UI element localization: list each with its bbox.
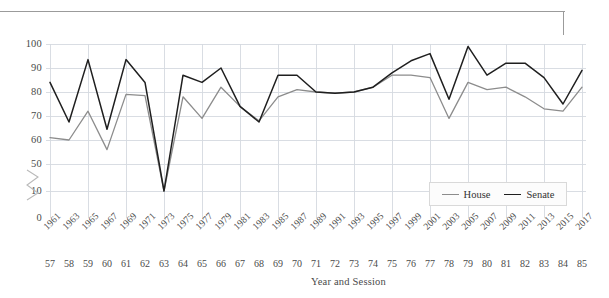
legend-swatch-senate xyxy=(504,194,521,195)
y-tick-label-80: 80 xyxy=(31,87,42,98)
x-tick-session-77: 77 xyxy=(420,258,440,269)
y-axis-labels: 0105060708090100 xyxy=(0,0,42,298)
x-tick-session-66: 66 xyxy=(211,258,231,269)
x-tick-year-1961: 1961 xyxy=(41,210,63,232)
x-tick-session-69: 69 xyxy=(268,258,288,269)
x-tick-session-57: 57 xyxy=(40,258,60,269)
x-tick-session-80: 80 xyxy=(477,258,497,269)
x-tick-session-73: 73 xyxy=(344,258,364,269)
x-tick-session-70: 70 xyxy=(287,258,307,269)
x-tick-session-83: 83 xyxy=(534,258,554,269)
legend-label-house: House xyxy=(464,189,491,200)
x-tick-session-65: 65 xyxy=(192,258,212,269)
header-rule xyxy=(0,11,565,12)
legend-label-senate: Senate xyxy=(526,189,554,200)
x-axis-title: Year and Session xyxy=(0,276,609,287)
x-tick-session-63: 63 xyxy=(154,258,174,269)
x-tick-session-60: 60 xyxy=(97,258,117,269)
x-tick-session-79: 79 xyxy=(458,258,478,269)
x-tick-session-85: 85 xyxy=(572,258,592,269)
y-tick-label-70: 70 xyxy=(31,111,42,122)
x-tick-session-61: 61 xyxy=(116,258,136,269)
x-tick-session-72: 72 xyxy=(325,258,345,269)
y-tick-label-60: 60 xyxy=(31,135,42,146)
x-tick-session-59: 59 xyxy=(78,258,98,269)
x-tick-session-84: 84 xyxy=(553,258,573,269)
x-tick-session-78: 78 xyxy=(439,258,459,269)
x-tick-session-76: 76 xyxy=(401,258,421,269)
x-tick-session-75: 75 xyxy=(382,258,402,269)
x-tick-session-74: 74 xyxy=(363,258,383,269)
y-tick-label-90: 90 xyxy=(31,63,42,74)
x-axis-title-text: Year and Session xyxy=(311,276,386,287)
y-axis-break-marker xyxy=(26,168,42,202)
header-rule-end-tick xyxy=(563,11,564,35)
x-tick-session-62: 62 xyxy=(135,258,155,269)
x-tick-session-81: 81 xyxy=(496,258,516,269)
x-tick-session-64: 64 xyxy=(173,258,193,269)
x-tick-session-82: 82 xyxy=(515,258,535,269)
x-tick-session-67: 67 xyxy=(230,258,250,269)
x-tick-session-68: 68 xyxy=(249,258,269,269)
x-tick-session-58: 58 xyxy=(59,258,79,269)
legend-swatch-house xyxy=(442,194,459,195)
y-tick-label-100: 100 xyxy=(26,39,42,50)
chart-legend: House Senate xyxy=(429,182,567,206)
chart-page: 0105060708090100 19615719635819655919676… xyxy=(0,0,609,298)
x-tick-session-71: 71 xyxy=(306,258,326,269)
